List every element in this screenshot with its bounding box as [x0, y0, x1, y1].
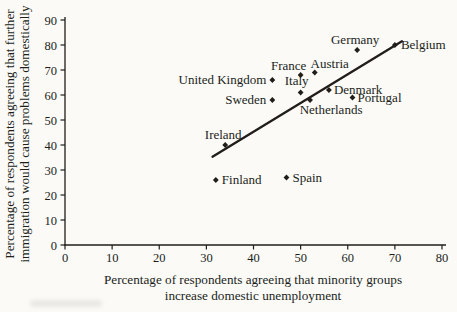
scatter-plot: 010203040506070800102030405060708090Finl…	[0, 0, 457, 312]
x-axis-title-line1: Percentage of respondents agreeing that …	[104, 272, 402, 287]
data-point-label-austria: Austria	[311, 56, 350, 71]
data-point-label-spain: Spain	[292, 170, 322, 185]
x-tick-label: 10	[106, 251, 119, 265]
y-axis-title-line2: immigration would cause problems domesti…	[17, 5, 32, 263]
y-tick-label: 0	[51, 239, 57, 253]
y-tick-label: 40	[45, 139, 58, 153]
data-point-label-belgium: Belgium	[401, 37, 446, 52]
data-point-marker-finland	[213, 177, 219, 183]
y-tick-label: 50	[45, 114, 58, 128]
data-point-label-france: France	[271, 58, 307, 73]
y-tick-label: 70	[45, 64, 58, 78]
y-tick-label: 80	[45, 39, 58, 53]
y-tick-label: 90	[45, 14, 58, 28]
x-tick-label: 40	[247, 251, 260, 265]
x-axis-title-line2: increase domestic unemployment	[165, 288, 342, 303]
data-point-marker-sweden	[269, 97, 275, 103]
data-point-marker-germany	[354, 47, 360, 53]
scan-artifact	[30, 300, 102, 307]
x-tick-label: 30	[200, 251, 213, 265]
x-tick-label: 50	[294, 251, 307, 265]
data-point-label-sweden: Sweden	[225, 92, 267, 107]
y-axis-title-line1: Percentage of respondents agreeing that …	[2, 9, 17, 259]
x-tick-label: 60	[342, 251, 355, 265]
data-point-marker-italy	[298, 90, 304, 96]
data-point-label-united-kingdom: United Kingdom	[179, 72, 267, 87]
data-point-label-ireland: Ireland	[205, 127, 242, 142]
data-point-label-italy: Italy	[285, 73, 309, 88]
x-tick-label: 0	[62, 251, 68, 265]
data-point-marker-spain	[284, 175, 290, 181]
data-point-label-germany: Germany	[331, 32, 380, 47]
y-tick-label: 10	[45, 214, 58, 228]
x-tick-label: 20	[153, 251, 166, 265]
x-tick-label: 80	[436, 251, 449, 265]
y-tick-label: 30	[45, 164, 58, 178]
data-point-label-netherlands: Netherlands	[300, 102, 363, 117]
data-point-label-finland: Finland	[222, 172, 262, 187]
x-tick-label: 70	[389, 251, 402, 265]
y-tick-label: 20	[45, 189, 58, 203]
scatter-figure: 010203040506070800102030405060708090Finl…	[0, 0, 457, 312]
y-tick-label: 60	[45, 89, 58, 103]
data-point-label-portugal: Portugal	[357, 90, 401, 105]
data-point-marker-united-kingdom	[269, 77, 275, 83]
